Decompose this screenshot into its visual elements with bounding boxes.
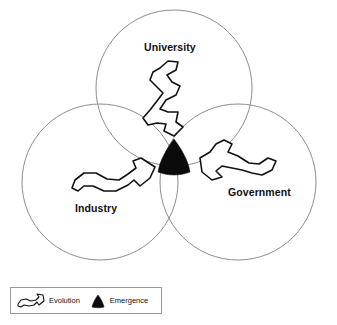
legend-label-emergence: Emergence: [110, 296, 148, 305]
label-university: University: [144, 41, 196, 53]
evolution-arrow-icon: [16, 292, 46, 310]
triple-helix-diagram: University Industry Government Evolution…: [0, 0, 337, 325]
emergence-triangle-icon: [89, 292, 107, 310]
evolution-arrow-university: [143, 61, 183, 136]
legend-row: Evolution Emergence: [11, 288, 161, 313]
legend-item-evolution: Evolution: [16, 292, 80, 310]
evolution-arrow-government: [200, 140, 276, 180]
evolution-arrow-industry: [72, 158, 155, 191]
emergence-triangle: [158, 139, 190, 175]
legend-item-emergence: Emergence: [89, 292, 148, 310]
label-government: Government: [228, 186, 291, 198]
legend: Evolution Emergence: [10, 287, 162, 314]
label-industry: Industry: [75, 202, 117, 214]
legend-label-evolution: Evolution: [49, 296, 80, 305]
